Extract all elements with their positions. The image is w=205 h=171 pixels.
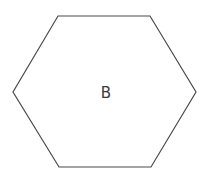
hexagon-diagram: B <box>0 0 205 171</box>
hexagon-label: B <box>101 84 111 102</box>
